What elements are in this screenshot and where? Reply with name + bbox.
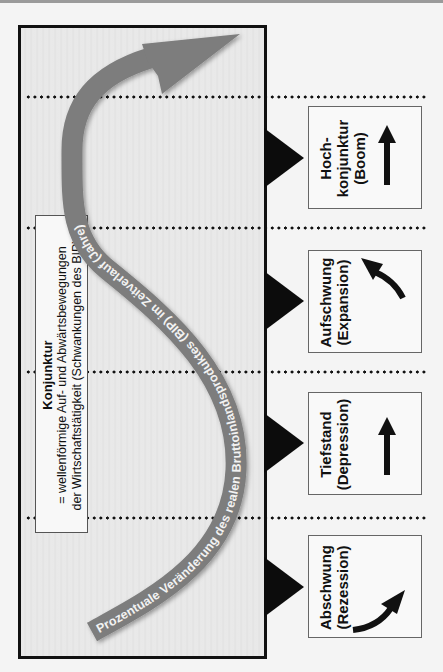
- phase-box-recession: Abschwung (Rezession): [308, 535, 422, 638]
- phase-sublabel: (Boom): [351, 132, 368, 185]
- phase-label: Tiefstand: [317, 411, 334, 477]
- pointer-triangle-expansion: [264, 271, 304, 331]
- phase-label: Abschwung: [317, 545, 334, 630]
- pointer-triangle-depression: [264, 413, 304, 473]
- phase-box-expansion: Aufschwung (Expansion): [308, 250, 422, 353]
- arrow-curved-up-left-icon: [349, 256, 409, 306]
- arrow-curved-up-right-icon: [349, 584, 409, 634]
- arrow-up-icon: [377, 125, 397, 185]
- arrow-up-icon: [377, 417, 397, 475]
- phase-label-2: konjunktur: [334, 120, 351, 198]
- phase-label: Aufschwung: [317, 258, 334, 348]
- pointer-triangle-boom: [264, 128, 304, 188]
- pointer-triangle-recession: [264, 557, 304, 617]
- phase-label: Hoch-: [317, 137, 334, 180]
- phase-sublabel: (Depression): [334, 399, 351, 491]
- curve-label: Prozentuale Veränderung des realen Brutt…: [72, 223, 244, 636]
- phase-box-boom: Hoch- konjunktur (Boom): [308, 106, 422, 209]
- phase-box-depression: Tiefstand (Depression): [308, 392, 422, 495]
